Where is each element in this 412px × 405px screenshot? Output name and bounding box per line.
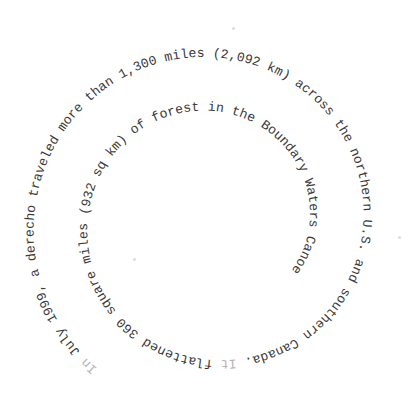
background-speck: [133, 258, 136, 261]
spiral-text: In July 1999, a derecho traveled more th…: [0, 0, 375, 377]
background-speck: [398, 236, 401, 239]
background-speck: [232, 27, 235, 30]
spiral-text-path: In July 1999, a derecho traveled more th…: [0, 0, 375, 377]
faded-word: It: [212, 355, 237, 371]
spiral-text-segment: July 1999, a derecho traveled more than …: [23, 46, 375, 370]
spiral-text-graphic: In July 1999, a derecho traveled more th…: [0, 0, 412, 405]
